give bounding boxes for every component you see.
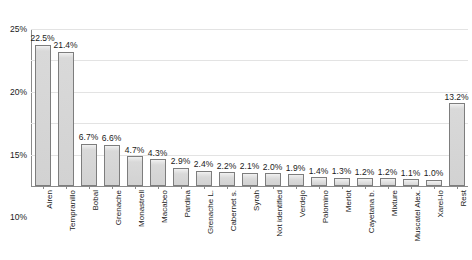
bar-value-label: 22.5% [30,34,54,43]
x-axis-tick-mark [411,186,412,189]
bar[interactable] [58,52,74,186]
bar-slot: 4.7% [127,29,143,186]
bar-slot: 4.3% [150,29,166,186]
bars-layer: 22.5%21.4%6.7%6.6%4.7%4.3%2.9%2.4%2.2%2.… [31,29,468,186]
bar-value-label: 1.2% [355,168,374,177]
bar[interactable] [150,159,166,186]
x-axis-label: Pardina [184,190,192,218]
x-axis-tick-mark [89,186,90,189]
bar-slot: 1.1% [403,29,419,186]
bar-slot: 6.7% [81,29,97,186]
x-axis-label: Macabeo [161,190,169,223]
bar[interactable] [173,168,189,186]
x-axis-label: Mixture [391,190,399,216]
bar[interactable] [357,178,373,186]
x-axis-tick-mark [135,186,136,189]
x-axis-label: Bobal [92,190,100,210]
x-axis-label: Xarel-lo [437,190,445,218]
bar[interactable] [127,156,143,186]
bar-value-label: 1.0% [424,169,443,178]
bar-slot: 1.9% [288,29,304,186]
bar-value-label: 1.3% [332,167,351,176]
x-axis-label: Rest [460,190,468,206]
x-axis-tick-mark [319,186,320,189]
bar-slot: 1.2% [380,29,396,186]
bar-value-label: 13.2% [444,93,468,102]
bar-value-label: 2.9% [171,157,190,166]
bar[interactable] [380,178,396,186]
x-axis-label-text: Tempranillo [69,190,77,231]
x-axis-tick-mark [250,186,251,189]
x-axis-label-text: Airen [46,190,54,209]
x-axis-label: Verdejo [299,190,307,217]
bar-slot: 22.5% [35,29,51,186]
x-axis-label-text: Mixture [391,190,399,216]
x-axis-tick-mark [296,186,297,189]
y-axis-tick-label: 10% [10,213,31,222]
x-axis-tick-mark [43,186,44,189]
bar-slot: 1.4% [311,29,327,186]
x-axis-label: Tempranillo [69,190,77,231]
x-axis-tick-mark [365,186,366,189]
bar-value-label: 1.1% [401,169,420,178]
bar[interactable] [449,103,465,186]
bar-slot: 2.1% [242,29,258,186]
x-axis-label: Muscatel Alex. [414,190,422,242]
bar-value-label: 4.3% [148,149,167,158]
x-axis-label: Cabernet s. [230,190,238,231]
x-axis-label-text: Syrah [253,190,261,211]
y-axis-tick-label: 15% [10,150,31,159]
x-axis-label-text: Macabeo [161,190,169,223]
x-axis-label-text: Rest [460,190,468,206]
x-axis-label: Merlot [345,190,353,212]
x-axis-tick-mark [204,186,205,189]
bar-value-label: 1.9% [286,164,305,173]
bar[interactable] [81,144,97,186]
bar[interactable] [104,145,120,186]
bar[interactable] [219,172,235,186]
bar-slot: 2.2% [219,29,235,186]
bar-slot: 1.3% [334,29,350,186]
bar[interactable] [196,171,212,186]
x-axis-label-text: Grenache [115,190,123,225]
x-axis-label-text: Merlot [345,190,353,212]
bar[interactable] [265,173,281,186]
x-axis-tick-mark [158,186,159,189]
x-axis-tick-mark [112,186,113,189]
x-axis-label-text: Bobal [92,190,100,210]
x-axis-tick-mark [66,186,67,189]
bar-value-label: 2.4% [194,160,213,169]
bar[interactable] [35,45,51,186]
x-axis-label-text: Cayetana b. [368,190,376,233]
x-axis-label: Monastrell [138,190,146,227]
bar-slot: 2.4% [196,29,212,186]
bar[interactable] [403,179,419,186]
bar[interactable] [311,177,327,186]
x-axis-label-text: Pardina [184,190,192,218]
x-axis-tick-mark [181,186,182,189]
bar-value-label: 2.1% [240,162,259,171]
bar[interactable] [242,173,258,186]
x-axis-label-text: Cabernet s. [230,190,238,231]
bar[interactable] [334,178,350,186]
x-axis-label: Airen [46,190,54,209]
x-axis-tick-mark [457,186,458,189]
x-axis-label-text: Palomino [322,190,330,223]
bar-value-label: 21.4% [53,41,77,50]
bar-slot: 6.6% [104,29,120,186]
x-axis-labels: AirenTempranilloBobalGrenacheMonastrellM… [31,190,468,260]
y-axis-tick-label: 20% [10,88,31,97]
bar-value-label: 6.6% [102,134,121,143]
bar-slot: 2.0% [265,29,281,186]
bar-chart: 0%5%10%15%20%25% 22.5%21.4%6.7%6.6%4.7%4… [0,0,472,260]
x-axis-tick-mark [388,186,389,189]
x-axis-label-text: Xarel-lo [437,190,445,218]
bar[interactable] [288,174,304,186]
bar-value-label: 6.7% [79,133,98,142]
x-axis-label: Grenache [115,190,123,225]
bar-value-label: 1.2% [378,168,397,177]
bar-slot: 13.2% [449,29,465,186]
bar-slot: 21.4% [58,29,74,186]
bar-value-label: 1.4% [309,167,328,176]
bar-value-label: 2.2% [217,162,236,171]
